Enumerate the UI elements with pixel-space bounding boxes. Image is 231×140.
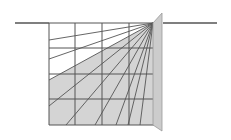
picture-plane — [153, 13, 162, 131]
diagram-canvas — [0, 0, 231, 140]
perspective-diagram — [0, 0, 231, 140]
